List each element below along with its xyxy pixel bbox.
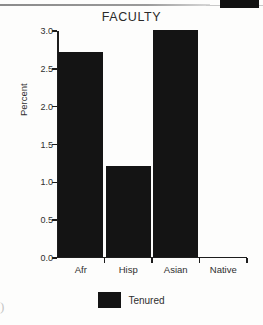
page-top-rule bbox=[0, 4, 210, 6]
x-axis-label-afr: Afr bbox=[75, 264, 87, 275]
x-tick-1 bbox=[104, 258, 106, 263]
bar-asian bbox=[153, 30, 198, 257]
y-tick-label-3.0: 3.0 bbox=[40, 26, 53, 36]
x-tick-2 bbox=[151, 258, 153, 263]
plot-area: 0.00.51.01.52.02.53.0 bbox=[57, 31, 247, 258]
y-tick-label-1.0: 1.0 bbox=[40, 177, 53, 187]
x-tick-3 bbox=[199, 258, 201, 263]
legend-swatch-tenured bbox=[98, 292, 121, 308]
x-axis-label-native: Native bbox=[210, 264, 237, 275]
y-tick-label-0.5: 0.5 bbox=[40, 215, 53, 225]
y-tick-label-1.5: 1.5 bbox=[40, 140, 53, 150]
x-axis-label-hisp: Hisp bbox=[119, 264, 138, 275]
y-tick-label-2.5: 2.5 bbox=[40, 64, 53, 74]
y-tick-label-0.0: 0.0 bbox=[40, 253, 53, 263]
x-tick-4 bbox=[246, 258, 248, 263]
bar-hisp bbox=[106, 166, 151, 257]
chart-legend: Tenured bbox=[0, 292, 263, 308]
bar-afr bbox=[58, 52, 103, 256]
chart-title: FACULTY bbox=[0, 10, 263, 24]
x-axis-label-asian: Asian bbox=[164, 264, 188, 275]
legend-label-tenured: Tenured bbox=[128, 295, 164, 306]
scan-corner-block bbox=[220, 0, 259, 8]
y-tick-label-2.0: 2.0 bbox=[40, 102, 53, 112]
chart-page: ) FACULTY Percent 0.00.51.01.52.02.53.0 … bbox=[0, 0, 263, 325]
y-axis-title: Percent bbox=[18, 83, 29, 116]
